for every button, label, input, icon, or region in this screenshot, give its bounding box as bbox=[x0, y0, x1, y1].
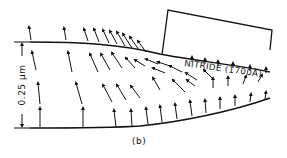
diagram-canvas bbox=[0, 0, 287, 158]
panel-label: (b) bbox=[132, 136, 146, 146]
scale-label: 0.25 μm bbox=[17, 55, 27, 115]
oxide-bottom-interface bbox=[30, 98, 270, 128]
nitride-outline bbox=[162, 10, 272, 55]
